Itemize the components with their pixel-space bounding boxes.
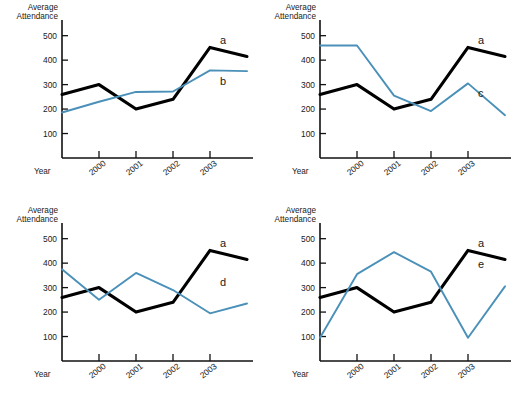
- y-tick-label: 200: [301, 104, 315, 114]
- series-label-c: c: [478, 87, 484, 99]
- y-axis-title-line1: Average: [286, 3, 317, 12]
- x-axis-label: Year: [292, 167, 309, 176]
- y-axis-title-line1: Average: [286, 206, 317, 215]
- series-label-e: e: [478, 258, 484, 270]
- x-tick-label: 2002: [161, 361, 182, 381]
- series-label-a: a: [220, 237, 227, 249]
- chart-top-right: AverageAttendance10020030040050020002001…: [258, 0, 516, 204]
- x-tick-label: 2003: [456, 361, 477, 381]
- x-tick-label: 2000: [345, 361, 366, 381]
- y-tick-label: 400: [301, 55, 315, 65]
- y-tick-label: 500: [43, 234, 57, 244]
- y-tick-label: 300: [43, 80, 57, 90]
- x-tick-label: 2001: [382, 361, 403, 381]
- y-tick-label: 400: [43, 55, 57, 65]
- x-tick-label: 2001: [124, 361, 145, 381]
- x-tick-label: 2000: [345, 158, 366, 178]
- x-tick-label: 2000: [87, 361, 108, 381]
- series-label-b: b: [220, 75, 226, 87]
- series-line-a: [320, 47, 505, 109]
- y-tick-label: 100: [43, 129, 57, 139]
- y-tick-label: 100: [301, 129, 315, 139]
- chart-bottom-right: AverageAttendance10020030040050020002001…: [258, 203, 516, 407]
- y-tick-label: 500: [301, 31, 315, 41]
- x-axis-label: Year: [292, 370, 309, 379]
- x-tick-label: 2002: [419, 158, 440, 178]
- x-tick-label: 2001: [382, 158, 403, 178]
- y-tick-label: 300: [301, 80, 315, 90]
- x-axis-label: Year: [34, 167, 51, 176]
- x-tick-label: 2003: [456, 158, 477, 178]
- series-label-a: a: [220, 34, 227, 46]
- y-tick-label: 300: [43, 283, 57, 293]
- y-axis-title-line2: Attendance: [275, 12, 317, 21]
- chart-panel-top-left: AverageAttendance10020030040050020002001…: [0, 0, 258, 204]
- y-tick-label: 200: [43, 104, 57, 114]
- series-label-a: a: [478, 237, 485, 249]
- x-tick-label: 2002: [161, 158, 182, 178]
- series-label-a: a: [478, 34, 485, 46]
- y-tick-label: 500: [43, 31, 57, 41]
- series-label-d: d: [220, 276, 226, 288]
- x-axis-label: Year: [34, 370, 51, 379]
- x-tick-label: 2001: [124, 158, 145, 178]
- y-axis-title-line2: Attendance: [275, 215, 317, 224]
- y-tick-label: 400: [43, 258, 57, 268]
- chart-bottom-left: AverageAttendance10020030040050020002001…: [0, 203, 258, 407]
- chart-panel-top-right: AverageAttendance10020030040050020002001…: [258, 0, 516, 204]
- y-axis-title-line1: Average: [28, 206, 59, 215]
- y-axis-title-line2: Attendance: [17, 215, 59, 224]
- y-axis-title-line1: Average: [28, 3, 59, 12]
- y-tick-label: 500: [301, 234, 315, 244]
- y-tick-label: 400: [301, 258, 315, 268]
- chart-panel-bottom-right: AverageAttendance10020030040050020002001…: [258, 203, 516, 407]
- y-tick-label: 100: [301, 332, 315, 342]
- x-tick-label: 2002: [419, 361, 440, 381]
- x-tick-label: 2003: [198, 158, 219, 178]
- chart-top-left: AverageAttendance10020030040050020002001…: [0, 0, 258, 204]
- x-tick-label: 2000: [87, 158, 108, 178]
- y-tick-label: 100: [43, 332, 57, 342]
- y-tick-label: 300: [301, 283, 315, 293]
- figure-panel-grid: AverageAttendance10020030040050020002001…: [0, 0, 516, 407]
- y-axis-title-line2: Attendance: [17, 12, 59, 21]
- y-tick-label: 200: [43, 307, 57, 317]
- chart-panel-bottom-left: AverageAttendance10020030040050020002001…: [0, 203, 258, 407]
- x-tick-label: 2003: [198, 361, 219, 381]
- y-tick-label: 200: [301, 307, 315, 317]
